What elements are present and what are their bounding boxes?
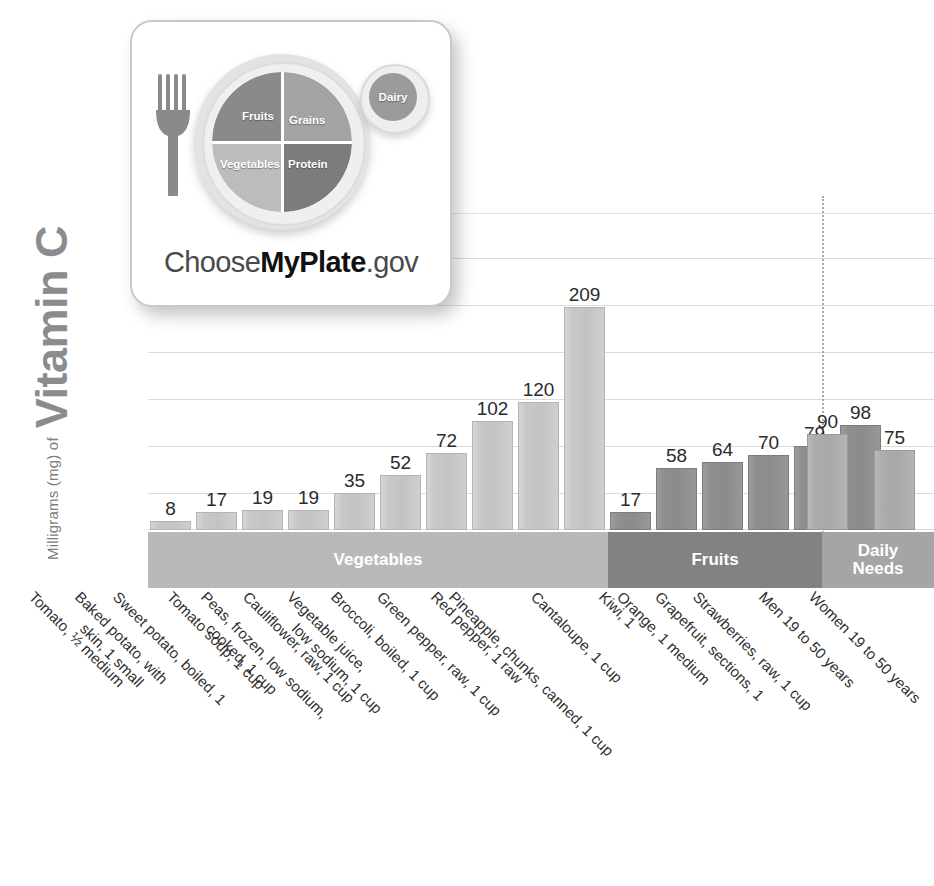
plate-label-vegetables: Vegetables <box>220 158 280 170</box>
category-band: Vegetables Fruits Daily Needs <box>148 532 934 588</box>
bar-value-label: 120 <box>523 380 555 399</box>
bar-value-label: 98 <box>850 403 871 422</box>
bar-group-cauliflower[interactable]: 52 <box>380 453 421 530</box>
bar-group-cantaloupe[interactable]: 58 <box>656 446 697 530</box>
bar-tomato[interactable] <box>150 521 191 530</box>
bar-value-label: 19 <box>252 488 273 507</box>
bar-value-label: 35 <box>344 471 365 490</box>
bar-value-label: 17 <box>206 490 227 509</box>
bar-group-sweet-potato[interactable]: 19 <box>242 488 283 530</box>
bar-value-label: 75 <box>884 428 905 447</box>
bar-kiwi[interactable] <box>702 462 743 530</box>
bar-baked-potato[interactable] <box>196 512 237 530</box>
bar-group-kiwi[interactable]: 64 <box>702 440 743 530</box>
myplate-logo-card: Fruits Grains Vegetables Protein Dairy C… <box>130 20 452 307</box>
bar-group-peas[interactable]: 35 <box>334 471 375 530</box>
bar-tomato-soup[interactable] <box>288 510 329 530</box>
y-axis-title: Milligrams (mg) of Vitamin C <box>0 0 104 560</box>
bar-group-tomato-soup[interactable]: 19 <box>288 488 329 530</box>
fork-icon <box>156 74 190 196</box>
bar-value-label: 19 <box>298 488 319 507</box>
bar-peas[interactable] <box>334 493 375 530</box>
bar-orange[interactable] <box>748 455 789 530</box>
bar-red-pepper[interactable] <box>564 307 605 530</box>
bar-value-label: 52 <box>390 453 411 472</box>
bar-group-pineapple[interactable]: 17 <box>610 490 651 530</box>
bar-value-label: 90 <box>817 412 838 431</box>
bar-pineapple[interactable] <box>610 512 651 530</box>
y-axis-title-main: Vitamin C <box>26 226 78 428</box>
bar-value-label: 102 <box>477 399 509 418</box>
bar-value-label: 8 <box>165 499 176 518</box>
bar-group-tomato[interactable]: 8 <box>150 499 191 530</box>
plate-divider-horizontal <box>212 141 352 144</box>
bar-women-daily-needs[interactable] <box>874 450 915 530</box>
y-axis-title-units: Milligrams (mg) of <box>44 428 61 560</box>
bar-value-label: 64 <box>712 440 733 459</box>
bar-group-red-pepper[interactable]: 209 <box>564 285 605 530</box>
dairy-cup: Dairy <box>360 64 430 134</box>
bar-group-men[interactable]: 90 <box>807 412 848 530</box>
bar-value-label: 70 <box>758 433 779 452</box>
bar-value-label: 17 <box>620 490 641 509</box>
band-segment-vegetables: Vegetables <box>148 532 608 588</box>
bar-cauliflower[interactable] <box>380 475 421 530</box>
band-segment-daily-needs: Daily Needs <box>822 532 934 588</box>
band-daily-line1: Daily <box>852 542 903 560</box>
plate-label-fruits: Fruits <box>242 110 274 122</box>
bar-sweet-potato[interactable] <box>242 510 283 530</box>
plate-label-protein: Protein <box>288 158 328 170</box>
plate-label-dairy: Dairy <box>379 91 408 103</box>
bar-green-pepper[interactable] <box>518 402 559 530</box>
plate-label-grains: Grains <box>289 114 325 126</box>
plate-quadrants: Fruits Grains Vegetables Protein <box>212 72 352 212</box>
bar-vegetable-juice[interactable] <box>426 453 467 530</box>
bar-group-broccoli[interactable]: 102 <box>472 399 513 530</box>
band-segment-fruits: Fruits <box>608 532 822 588</box>
bar-group-orange[interactable]: 70 <box>748 433 789 530</box>
x-axis-labels: Tomato, ½ medium Baked potato, with skin… <box>0 588 934 886</box>
bar-men-daily-needs[interactable] <box>807 434 848 530</box>
bar-cantaloupe[interactable] <box>656 468 697 530</box>
bar-value-label: 72 <box>436 431 457 450</box>
bar-value-label: 209 <box>569 285 601 304</box>
x-label-red-pepper: Red pepper, 1 raw <box>427 588 527 688</box>
chart-canvas: Milligrams (mg) of Vitamin C 8 17 19 1 <box>0 0 934 886</box>
wordmark-bold: MyPlate <box>260 246 365 278</box>
bar-group-vegetable-juice[interactable]: 72 <box>426 431 467 530</box>
bar-value-label: 58 <box>666 446 687 465</box>
bar-group-women[interactable]: 75 <box>874 428 915 530</box>
bar-group-green-pepper[interactable]: 120 <box>518 380 559 530</box>
wordmark-prefix: Choose <box>164 246 260 278</box>
band-daily-line2: Needs <box>852 560 903 578</box>
bar-group-baked-potato[interactable]: 17 <box>196 490 237 530</box>
wordmark-suffix: .gov <box>366 246 418 278</box>
bar-broccoli[interactable] <box>472 421 513 530</box>
myplate-wordmark: ChooseMyPlate.gov <box>132 246 450 279</box>
